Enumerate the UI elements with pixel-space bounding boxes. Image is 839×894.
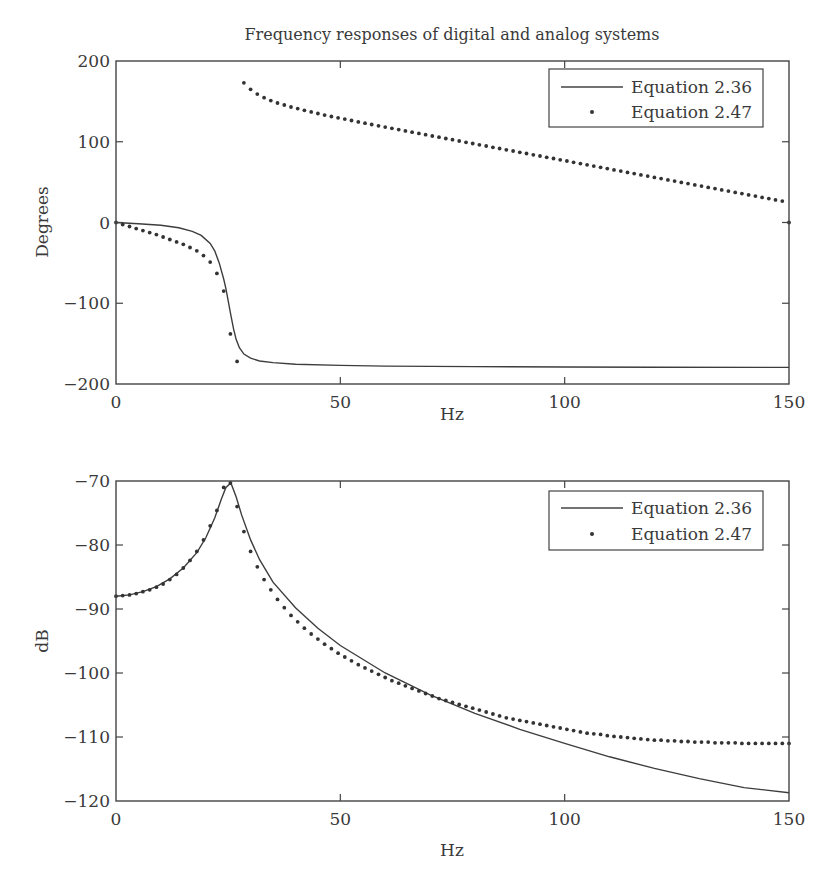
phase-x-label: Hz bbox=[440, 404, 464, 424]
series-dot bbox=[457, 703, 461, 707]
series-dot bbox=[269, 99, 273, 103]
series-dot bbox=[599, 165, 603, 169]
series-dot bbox=[255, 565, 259, 569]
series-dot bbox=[128, 593, 132, 597]
series-dot bbox=[558, 158, 562, 162]
series-dot bbox=[121, 223, 125, 227]
series-dot bbox=[478, 143, 482, 147]
series-dot bbox=[592, 164, 596, 168]
series-dot bbox=[276, 598, 280, 602]
series-dot bbox=[720, 741, 724, 745]
y-tick-label: 0 bbox=[99, 213, 110, 233]
series-dot bbox=[572, 160, 576, 164]
series-dot bbox=[424, 692, 428, 696]
series-dot bbox=[511, 717, 515, 721]
series-dot bbox=[565, 727, 569, 731]
series-dot bbox=[673, 179, 677, 183]
series-dot bbox=[444, 699, 448, 703]
series-dot bbox=[552, 157, 556, 161]
series-dot bbox=[383, 125, 387, 129]
series-dot bbox=[148, 588, 152, 592]
series-dot bbox=[451, 701, 455, 705]
series-dot bbox=[558, 726, 562, 730]
legend-dot-swatch bbox=[590, 532, 594, 536]
series-dot bbox=[471, 142, 475, 146]
series-dot bbox=[269, 588, 273, 592]
series-dot bbox=[309, 110, 313, 114]
series-dot bbox=[760, 196, 764, 200]
series-dot bbox=[383, 676, 387, 680]
series-dot bbox=[491, 712, 495, 716]
phase-y-label: Degrees bbox=[32, 186, 52, 258]
series-dot bbox=[484, 710, 488, 714]
series-dot bbox=[188, 246, 192, 250]
series-dot bbox=[155, 233, 159, 237]
series-dot bbox=[175, 240, 179, 244]
series-dot bbox=[639, 173, 643, 177]
series-dot bbox=[410, 130, 414, 134]
y-tick-label: −100 bbox=[63, 663, 110, 683]
series-dot bbox=[531, 153, 535, 157]
series-dot bbox=[356, 663, 360, 667]
y-tick-label: −70 bbox=[74, 471, 110, 491]
series-dot bbox=[208, 524, 212, 528]
series-dot bbox=[511, 149, 515, 153]
series-dot bbox=[612, 735, 616, 739]
series-dot bbox=[148, 231, 152, 235]
series-dot bbox=[343, 117, 347, 121]
series-dot bbox=[713, 741, 717, 745]
x-tick-label: 150 bbox=[773, 392, 805, 412]
series-dot bbox=[181, 566, 185, 570]
series-dot bbox=[565, 159, 569, 163]
x-tick-label: 50 bbox=[330, 392, 352, 412]
series-dot bbox=[404, 684, 408, 688]
series-dot bbox=[128, 225, 132, 229]
series-dot bbox=[457, 139, 461, 143]
series-dot bbox=[336, 651, 340, 655]
series-dot bbox=[404, 129, 408, 133]
x-tick-label: 0 bbox=[111, 392, 122, 412]
series-dot bbox=[733, 191, 737, 195]
series-dot bbox=[377, 124, 381, 128]
phase-plot: 050100150−200−1000100200 Hz Degrees Equa… bbox=[32, 51, 805, 424]
series-dot bbox=[121, 594, 125, 598]
series-dot bbox=[693, 740, 697, 744]
series-dot bbox=[780, 742, 784, 746]
series-dot bbox=[222, 486, 226, 490]
series-dot bbox=[733, 741, 737, 745]
series-dot bbox=[175, 573, 179, 577]
series-dot bbox=[303, 626, 307, 630]
series-dot bbox=[727, 741, 731, 745]
series-dot bbox=[377, 672, 381, 676]
series-dot bbox=[235, 505, 239, 509]
series-dot bbox=[370, 669, 374, 673]
figure: Frequency responses of digital and analo… bbox=[0, 0, 839, 894]
series-dot bbox=[222, 289, 226, 293]
series-dot bbox=[336, 116, 340, 120]
x-tick-label: 100 bbox=[548, 809, 580, 829]
series-dot bbox=[538, 154, 542, 158]
series-dot bbox=[134, 227, 138, 231]
series-dot bbox=[249, 87, 253, 91]
series-dot bbox=[168, 238, 172, 242]
series-dot bbox=[666, 178, 670, 182]
series-dot bbox=[370, 123, 374, 127]
series-dot bbox=[585, 163, 589, 167]
phase-legend-label-2: Equation 2.47 bbox=[631, 102, 752, 122]
series-dot bbox=[686, 182, 690, 186]
series-dot bbox=[666, 739, 670, 743]
legend-dot-swatch bbox=[590, 110, 594, 114]
series-dot bbox=[706, 186, 710, 190]
series-dot bbox=[740, 742, 744, 746]
series-dot bbox=[235, 360, 239, 364]
series-dot bbox=[491, 145, 495, 149]
series-dot bbox=[767, 197, 771, 201]
series-dot bbox=[282, 103, 286, 107]
series-dot bbox=[585, 731, 589, 735]
series-dot bbox=[343, 655, 347, 659]
series-dot bbox=[605, 734, 609, 738]
series-dot bbox=[202, 254, 206, 258]
series-dot bbox=[168, 578, 172, 582]
x-tick-label: 50 bbox=[330, 809, 352, 829]
series-dot bbox=[720, 188, 724, 192]
